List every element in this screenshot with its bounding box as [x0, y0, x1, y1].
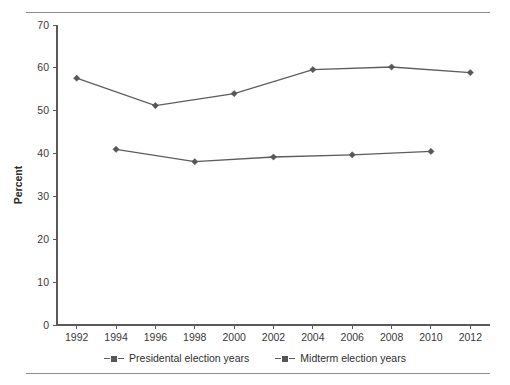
x-tick-label-2010: 2010 — [419, 331, 443, 343]
data-point-marker — [388, 64, 394, 70]
chart-svg: 010203040506070 199219941996199820002002… — [0, 0, 510, 385]
x-tick-label-1992: 1992 — [65, 331, 89, 343]
y-tick-label-40: 40 — [37, 147, 49, 159]
x-tick-label-2002: 2002 — [262, 331, 286, 343]
legend-entry-0[interactable]: Presidental election years — [104, 352, 249, 364]
chart-legend: Presidental election yearsMidterm electi… — [0, 352, 510, 364]
legend-square-icon — [282, 356, 288, 362]
y-tick-label-70: 70 — [37, 19, 49, 31]
legend-label: Midterm election years — [300, 352, 406, 364]
data-point-marker — [152, 102, 158, 108]
y-tick-label-20: 20 — [37, 233, 49, 245]
data-point-marker — [310, 66, 316, 72]
data-point-marker — [270, 154, 276, 160]
x-tick-label-2004: 2004 — [301, 331, 325, 343]
y-axis-title: Percent — [12, 165, 24, 204]
y-tick-label-50: 50 — [37, 104, 49, 116]
x-tick-label-2012: 2012 — [459, 331, 483, 343]
x-tick-label-1998: 1998 — [183, 331, 207, 343]
data-point-marker — [74, 75, 80, 81]
data-point-marker — [349, 152, 355, 158]
y-tick-label-30: 30 — [37, 190, 49, 202]
legend-marker-icon — [275, 354, 295, 363]
legend-marker-icon — [104, 354, 124, 363]
line-chart: 010203040506070 199219941996199820002002… — [0, 0, 510, 385]
x-tick-label-1994: 1994 — [104, 331, 128, 343]
data-point-marker — [467, 69, 473, 75]
y-axis: 010203040506070 — [37, 19, 57, 331]
data-point-marker — [231, 90, 237, 96]
x-tick-label-2000: 2000 — [222, 331, 246, 343]
data-point-marker — [428, 148, 434, 154]
x-tick-label-1996: 1996 — [144, 331, 168, 343]
legend-entry-1[interactable]: Midterm election years — [275, 352, 406, 364]
y-tick-label-10: 10 — [37, 276, 49, 288]
x-axis: 1992199419961998200020022004200620082010… — [65, 325, 482, 343]
data-point-marker — [113, 146, 119, 152]
series-layer — [74, 64, 474, 165]
series-line-0 — [77, 67, 471, 106]
x-tick-label-2008: 2008 — [380, 331, 404, 343]
x-tick-label-2006: 2006 — [341, 331, 365, 343]
data-point-marker — [192, 159, 198, 165]
y-tick-label-60: 60 — [37, 61, 49, 73]
legend-square-icon — [111, 356, 117, 362]
y-tick-label-0: 0 — [43, 319, 49, 331]
legend-label: Presidental election years — [129, 352, 249, 364]
